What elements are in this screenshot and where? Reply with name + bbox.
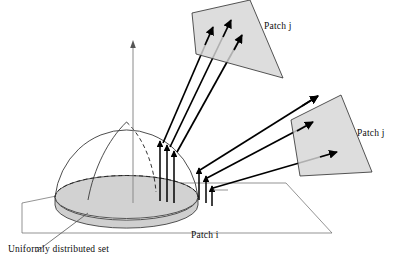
label-patch-j-right: Patch j (357, 128, 385, 138)
surface-normal-arrowhead (130, 40, 136, 48)
ray-to-patch-j-head (302, 96, 318, 106)
label-patch-j-top: Patch j (264, 21, 292, 31)
label-patch-i: Patch i (191, 230, 219, 240)
patch-j-top-surface (192, 0, 283, 78)
label-uniformly-distributed-set: Uniformly distributed set (8, 244, 109, 254)
